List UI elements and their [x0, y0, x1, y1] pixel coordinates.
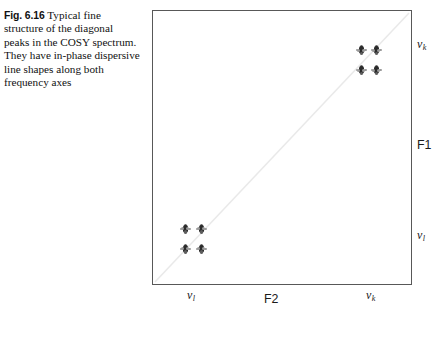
peak-lobe [184, 250, 187, 253]
peak-lobe [379, 49, 381, 51]
peak-lobe [379, 69, 381, 71]
peak-lobe [188, 248, 190, 250]
peak-lobe [188, 228, 190, 230]
peak-lobe [375, 72, 378, 75]
x-axis-tick-label-nu-l: νl [187, 288, 195, 303]
peak-lobe [375, 52, 378, 55]
x-axis-tick-label-nu-k: νk [366, 288, 375, 303]
peak-lobe [204, 228, 206, 230]
peak-lobe [180, 248, 182, 250]
diagonal-guide-line [153, 11, 411, 284]
peak-lobe [184, 230, 187, 233]
peak-lobe [200, 250, 203, 253]
peak-lobe [196, 248, 198, 250]
figure-caption: Fig. 6.16 Typical fine structure of the … [4, 9, 140, 89]
y-axis-title-f1: F1 [417, 138, 431, 152]
peak-lobe [204, 248, 206, 250]
figure-number: Fig. 6.16 [4, 10, 45, 21]
spectrum-plot-area [152, 10, 412, 285]
peak-lobe [196, 228, 198, 230]
y-axis-tick-label-nu-l: νl [417, 228, 425, 243]
peak-lobe [364, 69, 366, 71]
peak-lobe [360, 52, 363, 55]
peak-lobe [180, 228, 182, 230]
peak-lobe [200, 230, 203, 233]
peak-lobe [364, 49, 366, 51]
y-axis-tick-label-nu-k: νk [417, 37, 426, 52]
peak-lobe [360, 72, 363, 75]
x-axis-title-f2: F2 [264, 292, 278, 306]
